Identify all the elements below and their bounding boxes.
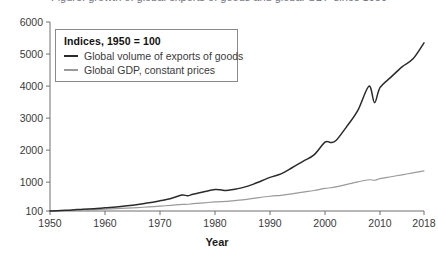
line-swatch-gdp-icon	[64, 69, 78, 71]
line-swatch-exports-icon	[64, 55, 78, 57]
y-tick-label: 5000	[20, 48, 44, 60]
chart-legend: Indices, 1950 = 100 Global volume of exp…	[55, 29, 238, 82]
x-tick-label: 2010	[368, 217, 392, 229]
legend-title: Indices, 1950 = 100	[64, 35, 230, 47]
y-tick-label: 2000	[20, 144, 44, 156]
legend-item-exports: Global volume of exports of goods	[64, 50, 230, 62]
y-tick-label: 6000	[20, 16, 44, 28]
chart-figure: Figure: growth of global exports of good…	[0, 0, 438, 258]
x-tick-label: 1970	[148, 217, 172, 229]
x-tick-label: 1960	[93, 217, 117, 229]
x-tick-label: 1950	[38, 217, 62, 229]
y-tick-label: 3000	[20, 112, 44, 124]
x-tick-label: 2000	[313, 217, 337, 229]
x-axis-title: Year	[205, 236, 229, 248]
y-tick-label: 100	[25, 205, 43, 217]
y-tick-label: 1000	[20, 176, 44, 188]
legend-item-gdp: Global GDP, constant prices	[64, 64, 230, 76]
x-tick-label: 1980	[203, 217, 227, 229]
series-line-gdp	[50, 171, 424, 211]
x-tick-label: 1990	[258, 217, 282, 229]
legend-label-gdp: Global GDP, constant prices	[84, 64, 215, 76]
y-tick-label: 4000	[20, 80, 44, 92]
legend-label-exports: Global volume of exports of goods	[84, 50, 243, 62]
x-tick-label: 2018	[412, 217, 436, 229]
